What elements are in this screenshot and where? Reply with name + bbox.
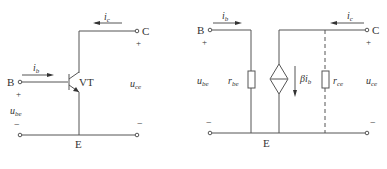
ib-label-eq: ib (222, 10, 229, 23)
emitter-terminal-right[interactable] (135, 133, 139, 137)
ib-label: ib (33, 62, 40, 75)
base-plus-eq: + (202, 37, 207, 47)
emitter-label-eq: E (263, 137, 270, 149)
npn-transistor-icon (69, 72, 79, 92)
collector-label: C (142, 25, 149, 37)
collector-plus: + (136, 38, 141, 48)
ic-label-eq: ic (347, 10, 354, 23)
transistor-label: VT (79, 76, 94, 88)
emitter-terminal-left[interactable] (18, 133, 22, 137)
collector-wire (79, 31, 136, 73)
emitter-terminal-eq-left[interactable] (208, 131, 212, 135)
base-terminal[interactable] (18, 80, 22, 84)
rbe-resistor-icon (248, 71, 255, 88)
collector-label-eq: C (372, 24, 379, 36)
collector-minus-eq: − (370, 117, 376, 128)
base-minus: − (14, 119, 20, 130)
ube-label-eq: ube (197, 75, 209, 88)
beta-ib-label: βib (299, 73, 312, 86)
collector-minus: − (137, 118, 143, 129)
collector-wire-eq (279, 30, 365, 64)
beta-ib-arrow-icon (293, 66, 297, 97)
ube-label: ube (10, 105, 22, 118)
uce-label-eq: uce (366, 75, 377, 88)
rce-resistor-icon (322, 71, 329, 88)
base-terminal-eq[interactable] (208, 28, 212, 32)
base-label-eq: B (197, 24, 204, 36)
collector-terminal-eq[interactable] (365, 28, 369, 32)
emitter-label: E (75, 138, 82, 150)
uce-label: uce (130, 78, 141, 91)
base-minus-eq: − (206, 117, 212, 128)
base-label: B (7, 76, 14, 88)
collector-terminal[interactable] (135, 29, 139, 33)
ic-label: ic (104, 11, 111, 24)
right-circuit: ib B + ic C + ube rbe βib rce uce − − E (197, 10, 379, 149)
ic-arrow-eq-icon (330, 21, 364, 25)
rbe-label: rbe (228, 75, 239, 88)
left-circuit: ic C + ib B + VT ube − uce − E (7, 11, 149, 150)
collector-plus-eq: + (366, 37, 371, 47)
emitter-terminal-eq-right[interactable] (365, 131, 369, 135)
base-plus: + (16, 89, 21, 99)
dependent-current-source-icon (270, 64, 288, 94)
rce-label: rce (333, 75, 343, 88)
base-wire-eq (212, 30, 251, 71)
